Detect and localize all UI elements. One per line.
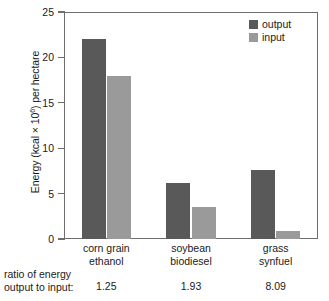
bar-input-1 [192, 207, 216, 239]
bars-layer [64, 12, 318, 239]
ratio-value-0: 1.25 [61, 280, 151, 293]
x-axis-label-line1: soybean [171, 242, 211, 254]
legend-swatch-input-icon [249, 33, 258, 42]
y-axis-title: Energy (kcal × 106) per hectare [29, 7, 41, 237]
x-axis-label-2: grasssynfuel [231, 242, 321, 267]
y-axis-title-exponent: 6 [29, 109, 36, 113]
legend-item-output: output [249, 18, 291, 30]
bar-output-0 [82, 39, 106, 239]
x-axis-label-line1: grass [263, 242, 289, 254]
legend-item-input: input [249, 31, 291, 43]
bar-output-1 [166, 183, 190, 239]
bar-input-2 [276, 231, 300, 239]
x-axis-label-0: corn grainethanol [61, 242, 151, 267]
y-axis-tick-label: 15 [14, 98, 54, 109]
ratio-caption-line1: ratio of energy [4, 268, 71, 280]
legend-swatch-output-icon [249, 20, 258, 29]
x-axis-label-1: soybeanbiodiesel [146, 242, 236, 267]
x-axis-label-line2: ethanol [61, 255, 151, 268]
legend-label-output: output [262, 19, 291, 30]
energy-balance-bar-chart: Energy (kcal × 106) per hectare 25201510… [0, 0, 329, 301]
x-axis-label-line1: corn grain [83, 242, 130, 254]
y-axis-tick-label: 0 [14, 234, 54, 245]
ratio-value-2: 8.09 [231, 280, 321, 293]
x-axis-label-line2: biodiesel [146, 255, 236, 268]
bar-output-2 [251, 170, 275, 239]
y-axis-tick-label: 20 [14, 52, 54, 63]
chart-legend: output input [249, 18, 291, 44]
ratio-value-1: 1.93 [146, 280, 236, 293]
y-axis-tick-label: 5 [14, 188, 54, 199]
y-axis-tick-label: 25 [14, 7, 54, 18]
x-axis-label-line2: synfuel [231, 255, 321, 268]
legend-label-input: input [262, 32, 285, 43]
y-axis-tick-label: 10 [14, 143, 54, 154]
bar-input-0 [107, 76, 131, 239]
